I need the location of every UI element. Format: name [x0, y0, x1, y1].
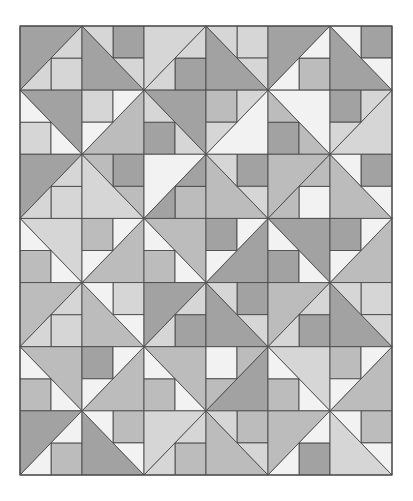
small-square	[268, 379, 299, 411]
small-square	[299, 443, 330, 475]
quilt-block	[206, 218, 268, 282]
quilt-block	[330, 154, 392, 218]
quilt-block	[268, 90, 330, 154]
small-square	[82, 218, 113, 250]
quilt-block	[330, 347, 392, 411]
quilt-block	[268, 26, 330, 90]
quilt-block	[82, 283, 144, 347]
small-square	[237, 26, 268, 58]
quilt-block	[20, 411, 82, 475]
quilt-block	[268, 218, 330, 282]
small-square	[82, 90, 113, 122]
quilt-block	[330, 26, 392, 90]
quilt-block	[268, 283, 330, 347]
quilt-block	[144, 411, 206, 475]
quilt-block	[206, 26, 268, 90]
quilt-block	[144, 90, 206, 154]
small-square	[237, 154, 268, 186]
quilt-block	[206, 347, 268, 411]
quilt-block	[82, 90, 144, 154]
quilt-block	[144, 26, 206, 90]
small-square	[206, 90, 237, 122]
small-square	[268, 251, 299, 283]
small-square	[51, 315, 82, 347]
quilt-block	[82, 26, 144, 90]
small-square	[144, 379, 175, 411]
small-square	[113, 26, 144, 58]
quilt-block	[82, 347, 144, 411]
small-square	[51, 58, 82, 90]
quilt-block	[268, 154, 330, 218]
quilt-block	[144, 154, 206, 218]
quilt-block	[144, 283, 206, 347]
small-square	[237, 283, 268, 315]
small-square	[82, 347, 113, 379]
small-square	[144, 251, 175, 283]
small-square	[361, 411, 392, 443]
quilt-block	[82, 411, 144, 475]
small-square	[113, 283, 144, 315]
small-square	[20, 122, 51, 154]
small-square	[361, 283, 392, 315]
quilt-block	[330, 283, 392, 347]
small-square	[20, 379, 51, 411]
small-square	[206, 218, 237, 250]
quilt-block	[206, 90, 268, 154]
quilt-block	[20, 347, 82, 411]
quilt-block	[144, 347, 206, 411]
small-square	[51, 186, 82, 218]
quilt-block	[144, 218, 206, 282]
small-square	[237, 411, 268, 443]
small-square	[206, 347, 237, 379]
quilt-block	[20, 218, 82, 282]
quilt-block	[206, 411, 268, 475]
quilt-block	[330, 90, 392, 154]
small-square	[113, 154, 144, 186]
quilt-pattern	[0, 0, 413, 501]
quilt-block	[206, 154, 268, 218]
quilt-block	[20, 26, 82, 90]
quilt-block	[206, 283, 268, 347]
quilt-block	[82, 218, 144, 282]
quilt-block	[82, 154, 144, 218]
small-square	[51, 443, 82, 475]
small-square	[330, 90, 361, 122]
small-square	[113, 411, 144, 443]
small-square	[175, 315, 206, 347]
small-square	[330, 347, 361, 379]
small-square	[20, 251, 51, 283]
small-square	[361, 154, 392, 186]
quilt-block	[268, 347, 330, 411]
small-square	[175, 186, 206, 218]
quilt-block	[20, 283, 82, 347]
small-square	[361, 26, 392, 58]
small-square	[268, 122, 299, 154]
small-square	[175, 58, 206, 90]
small-square	[299, 58, 330, 90]
quilt-blocks	[20, 26, 392, 475]
quilt-block	[330, 411, 392, 475]
quilt-block	[330, 218, 392, 282]
small-square	[175, 443, 206, 475]
quilt-block	[268, 411, 330, 475]
small-square	[144, 122, 175, 154]
small-square	[299, 315, 330, 347]
quilt-block	[20, 154, 82, 218]
small-square	[299, 186, 330, 218]
small-square	[330, 218, 361, 250]
quilt-block	[20, 90, 82, 154]
